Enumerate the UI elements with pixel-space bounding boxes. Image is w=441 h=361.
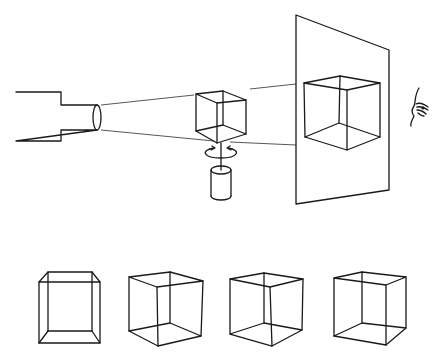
projected-cube-shadow <box>304 76 380 150</box>
projector <box>16 92 101 141</box>
bottom-cube-2 <box>129 272 203 346</box>
bottom-cube-3 <box>230 273 303 346</box>
eye-icon <box>411 88 428 126</box>
kinetic-depth-diagram <box>0 0 441 361</box>
bottom-cube-4 <box>334 272 406 345</box>
object-cube <box>196 91 246 143</box>
bottom-cube-1 <box>39 272 100 343</box>
projection-screen <box>296 15 389 204</box>
figure-caption-truncated <box>0 355 441 361</box>
cylinder-stand <box>211 166 231 200</box>
projector-lens <box>93 105 101 130</box>
